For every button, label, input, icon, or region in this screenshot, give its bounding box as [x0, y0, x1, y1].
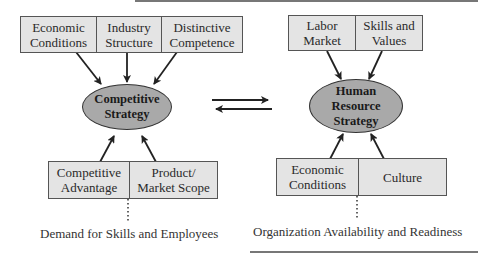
factor-skills-values: Skills and Values — [355, 16, 422, 50]
factor-labor-market: Labor Market — [289, 16, 355, 50]
right-bottom-factors: Economic Conditions Culture — [276, 158, 447, 196]
factor-distinctive-competence: Distinctive Competence — [161, 17, 242, 52]
right-top-factors: Labor Market Skills and Values — [288, 15, 423, 51]
factor-economic-conditions: Economic Conditions — [21, 17, 96, 52]
factor-product-market-scope: Product/ Market Scope — [129, 162, 217, 198]
left-caption: Demand for Skills and Employees — [40, 226, 218, 242]
factor-economic-conditions-right: Economic Conditions — [277, 159, 358, 195]
competitive-strategy-node: Competitive Strategy — [82, 84, 172, 130]
factor-competitive-advantage: Competitive Advantage — [49, 162, 129, 198]
left-bottom-factors: Competitive Advantage Product/ Market Sc… — [48, 161, 218, 199]
factor-culture: Culture — [358, 159, 446, 195]
factor-industry-structure: Industry Structure — [96, 17, 161, 52]
right-caption: Organization Availability and Readiness — [253, 224, 462, 240]
hr-strategy-node: Human Resource Strategy — [309, 79, 403, 133]
left-top-factors: Economic Conditions Industry Structure D… — [20, 16, 243, 53]
